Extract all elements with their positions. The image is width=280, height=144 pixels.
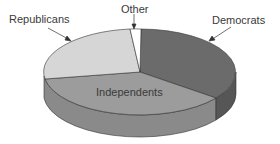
label-other: Other bbox=[121, 3, 149, 15]
slice-republicans bbox=[44, 29, 140, 79]
label-independents: Independents bbox=[96, 86, 163, 98]
label-republicans: Republicans bbox=[9, 13, 70, 25]
arrow-democrats bbox=[211, 27, 231, 40]
arrowhead-republicans bbox=[65, 36, 71, 41]
label-democrats: Democrats bbox=[212, 14, 265, 26]
arrowhead-other bbox=[132, 24, 136, 29]
pie-top bbox=[44, 29, 236, 115]
arrowhead-democrats bbox=[209, 36, 215, 41]
